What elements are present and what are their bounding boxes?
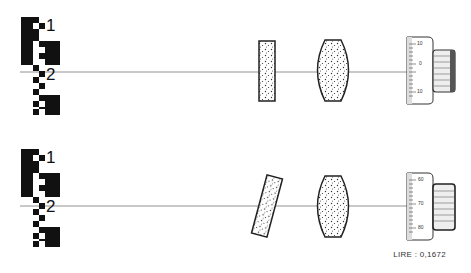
top-panel: 1 2 10 0 10 — [0, 0, 471, 136]
top-diagram — [0, 0, 471, 136]
scale-label-top: 60 — [418, 176, 424, 182]
target-label-2: 2 — [46, 198, 55, 215]
biconvex-lens — [318, 40, 349, 101]
reading-caption: LIRE : 0,1672 — [393, 250, 446, 259]
scale-label-bottom: 10 — [417, 88, 423, 94]
target-label-2: 2 — [46, 66, 55, 83]
biconvex-lens — [318, 176, 349, 237]
scale-label-top: 10 — [417, 40, 423, 46]
target-label-1: 1 — [46, 149, 55, 166]
micrometer-icon — [407, 173, 455, 240]
glass-plate — [259, 41, 275, 101]
micrometer-icon — [407, 37, 455, 104]
scale-label-mid: 70 — [418, 200, 424, 206]
scale-label-bottom: 80 — [418, 224, 424, 230]
scale-label-mid: 0 — [419, 60, 422, 66]
target-label-1: 1 — [46, 17, 55, 34]
